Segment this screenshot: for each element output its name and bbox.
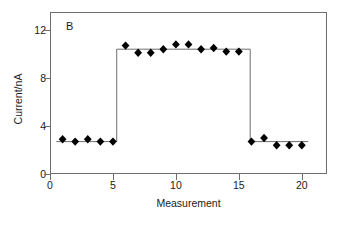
data-point bbox=[71, 137, 79, 145]
data-point bbox=[96, 137, 104, 145]
data-point bbox=[147, 49, 155, 57]
x-tick-label: 0 bbox=[35, 179, 65, 191]
data-point bbox=[222, 47, 230, 55]
x-tick-mark bbox=[113, 174, 114, 180]
data-point bbox=[197, 45, 205, 53]
data-point bbox=[185, 40, 193, 48]
plot-area bbox=[50, 12, 327, 174]
y-tick-label: 12 bbox=[24, 24, 46, 36]
x-tick-label: 20 bbox=[287, 179, 317, 191]
data-point bbox=[273, 141, 281, 149]
data-point bbox=[235, 47, 243, 55]
data-point bbox=[159, 45, 167, 53]
data-point bbox=[84, 135, 92, 143]
step-trace bbox=[56, 49, 308, 141]
x-tick-mark bbox=[50, 174, 51, 180]
x-tick-label: 15 bbox=[224, 179, 254, 191]
step-line bbox=[56, 49, 308, 141]
x-axis-title: Measurement bbox=[50, 197, 327, 209]
data-point bbox=[172, 40, 180, 48]
y-axis-tick-labels: 04812 bbox=[16, 0, 46, 226]
x-tick-mark bbox=[176, 174, 177, 180]
x-tick-label: 10 bbox=[161, 179, 191, 191]
data-point bbox=[210, 44, 218, 52]
data-point bbox=[122, 41, 130, 49]
data-point-markers bbox=[59, 40, 306, 149]
x-tick-mark bbox=[239, 174, 240, 180]
data-point bbox=[260, 134, 268, 142]
data-point bbox=[285, 141, 293, 149]
data-point bbox=[109, 137, 117, 145]
x-tick-label: 5 bbox=[98, 179, 128, 191]
data-point bbox=[134, 49, 142, 57]
figure-panel-b: Current/nA 04812 B 05101520 Measurement bbox=[0, 0, 348, 226]
x-tick-mark bbox=[302, 174, 303, 180]
data-point bbox=[59, 135, 67, 143]
y-tick-label: 4 bbox=[24, 120, 46, 132]
data-point bbox=[298, 141, 306, 149]
y-tick-label: 8 bbox=[24, 72, 46, 84]
data-point bbox=[248, 137, 256, 145]
